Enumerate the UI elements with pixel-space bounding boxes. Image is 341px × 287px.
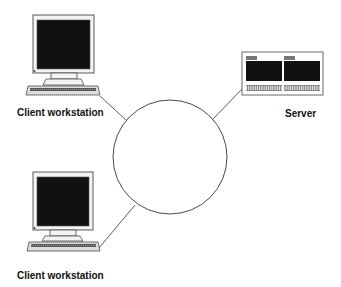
edge-server-network [213, 88, 243, 119]
workstation-icon [27, 172, 100, 251]
edge-client2-network [99, 205, 135, 248]
network-diagram [0, 0, 341, 287]
server-icon [242, 52, 323, 95]
client-workstation-label: Client workstation [17, 107, 104, 118]
server-label: Server [285, 108, 316, 119]
edge-client1-network [100, 96, 126, 120]
workstation-icon [26, 15, 100, 95]
client-workstation-label: Client workstation [17, 270, 104, 281]
network-circle [113, 100, 227, 214]
